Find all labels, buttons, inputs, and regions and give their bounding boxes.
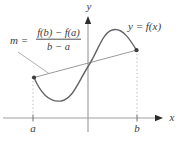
x-axis-label: x [169,111,175,123]
curve-equation-label: y = f(x) [127,20,161,33]
secant-line [34,50,137,77]
x-axis-arrowhead-icon [155,115,163,121]
slope-formula: m = f(b) − f(a) b − a [10,27,81,52]
slope-prefix-label: m = [10,34,28,46]
slope-label-leader-line [18,52,49,74]
point-a-dot [32,75,36,79]
slope-numerator-label: f(b) − f(a) [37,27,80,39]
y-axis-label: y [86,0,92,12]
slope-denominator-label: b − a [47,41,70,52]
mean-value-theorem-diagram: x y a b m = f(b) − f(a) b − a y = f(x) [0,0,180,145]
figure-canvas: x y a b m = f(b) − f(a) b − a y = f(x) [0,0,180,145]
y-axis-arrowhead-icon [85,16,91,24]
tick-a-label: a [30,122,36,134]
point-b-dot [134,48,138,52]
tick-b-label: b [134,122,140,134]
